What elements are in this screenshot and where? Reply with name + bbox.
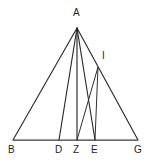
vertex-label-d: D	[55, 145, 62, 155]
geometry-diagram-canvas	[0, 0, 154, 162]
vertex-label-e: E	[91, 145, 98, 155]
vertex-label-a: A	[73, 8, 80, 18]
vertex-label-b: B	[8, 145, 15, 155]
vertex-label-g: G	[134, 145, 142, 155]
segment-ie	[95, 67, 98, 140]
segment-layer	[13, 28, 138, 140]
segment-zi	[77, 67, 98, 140]
vertex-label-z: Z	[73, 145, 79, 155]
vertex-label-i: I	[102, 51, 105, 61]
segment-ab	[13, 28, 77, 140]
geometry-figure: AIBDZEG	[0, 0, 154, 162]
